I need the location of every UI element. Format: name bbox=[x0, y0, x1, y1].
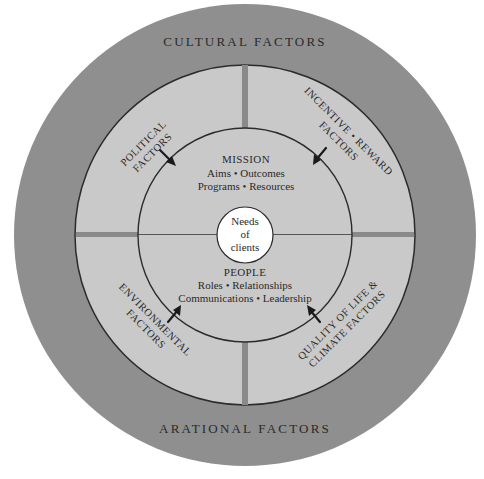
divider-right bbox=[352, 232, 414, 237]
center-line-1: Needs bbox=[231, 215, 259, 227]
people-title: PEOPLE bbox=[224, 266, 267, 278]
divider-bottom bbox=[242, 342, 248, 405]
divider-top bbox=[242, 65, 248, 128]
mission-line-2: Programs • Resources bbox=[198, 180, 295, 192]
divider-left bbox=[76, 232, 138, 237]
center-line-3: clients bbox=[231, 241, 260, 253]
organizational-factors-diagram: Needs of clients MISSION Aims • Outcomes… bbox=[0, 0, 484, 479]
people-line-2: Communications • Leadership bbox=[178, 292, 312, 304]
center-line-2: of bbox=[240, 228, 250, 240]
mission-title: MISSION bbox=[222, 153, 270, 165]
people-line-1: Roles • Relationships bbox=[198, 279, 292, 291]
arational-factors-label: ARATIONAL FACTORS bbox=[159, 421, 331, 436]
mission-line-1: Aims • Outcomes bbox=[207, 167, 285, 179]
cultural-factors-label: CULTURAL FACTORS bbox=[163, 34, 326, 49]
